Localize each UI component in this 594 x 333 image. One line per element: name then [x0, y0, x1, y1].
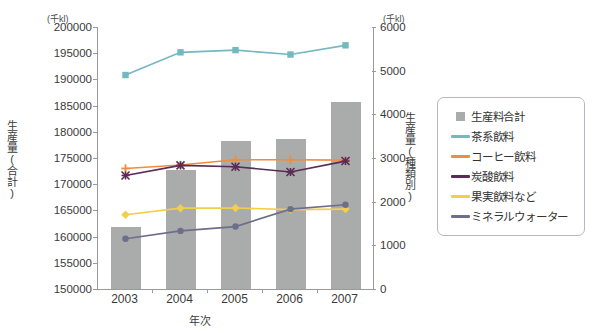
- data-point-marker-circle: [232, 223, 238, 229]
- legend-label: 炭酸飲料: [471, 168, 514, 184]
- data-point-marker-star: [287, 168, 295, 176]
- right-tick-mark: [372, 114, 376, 115]
- x-tick-mark: [152, 289, 153, 293]
- x-tick-label: 2003: [99, 292, 151, 306]
- data-point-marker-star: [232, 163, 240, 171]
- right-tick-label: 1000: [380, 239, 430, 251]
- data-point-marker-star: [342, 157, 350, 165]
- legend-key: [449, 215, 471, 218]
- data-point-marker-star: [177, 161, 185, 169]
- data-point-marker-plus: [286, 156, 294, 164]
- left-tick-label: 200000: [30, 21, 92, 33]
- left-tick-mark: [93, 263, 97, 264]
- left-tick-mark: [93, 53, 97, 54]
- legend-item[interactable]: ミネラルウォーター: [449, 206, 575, 226]
- left-tick-mark: [93, 184, 97, 185]
- right-tick-mark: [372, 158, 376, 159]
- legend-swatch-line-icon: [451, 175, 470, 178]
- right-tick-label: 0: [380, 283, 430, 295]
- left-tick-label: 185000: [30, 100, 92, 112]
- left-tick-mark: [93, 79, 97, 80]
- right-tick-mark: [372, 202, 376, 203]
- legend-key: [449, 175, 471, 178]
- data-point-marker-diamond: [121, 211, 129, 219]
- left-axis-title: 生産量(合計): [6, 120, 17, 199]
- left-tick-label: 180000: [30, 126, 92, 138]
- data-point-marker-square: [342, 42, 348, 48]
- legend-swatch-line-icon: [451, 195, 470, 198]
- data-point-marker-square: [287, 51, 293, 57]
- legend-label: 果実飲料など: [471, 188, 536, 204]
- left-tick-label: 165000: [30, 204, 92, 216]
- chart-legend: 生産料合計茶系飲料コーヒー飲料炭酸飲料果実飲料などミネラルウォーター: [437, 97, 585, 236]
- chart-root: (千kl) (千kl) 生産量(合計) 生産量(種類別) 年次 15000015…: [0, 0, 594, 333]
- legend-key: [449, 135, 471, 138]
- legend-swatch-line-icon: [451, 135, 470, 138]
- data-point-marker-circle: [287, 206, 293, 212]
- left-tick-label: 155000: [30, 257, 92, 269]
- x-tick-label: 2007: [319, 292, 371, 306]
- left-tick-label: 170000: [30, 178, 92, 190]
- left-tick-mark: [93, 158, 97, 159]
- right-tick-label: 6000: [380, 21, 430, 33]
- data-point-marker-diamond: [231, 204, 239, 212]
- x-tick-mark: [207, 289, 208, 293]
- legend-swatch-line-icon: [451, 215, 470, 218]
- data-point-marker-circle: [177, 228, 183, 234]
- legend-key: [449, 195, 471, 198]
- data-point-marker-star: [122, 171, 130, 179]
- data-point-marker-circle: [342, 202, 348, 208]
- right-tick-label: 3000: [380, 152, 430, 164]
- x-tick-label: 2004: [154, 292, 206, 306]
- right-tick-label: 2000: [380, 196, 430, 208]
- legend-key: [449, 155, 471, 158]
- legend-item[interactable]: 生産料合計: [449, 106, 575, 126]
- left-tick-label: 175000: [30, 152, 92, 164]
- right-tick-mark: [372, 289, 376, 290]
- left-tick-mark: [93, 289, 97, 290]
- legend-item[interactable]: 茶系飲料: [449, 126, 575, 146]
- data-point-marker-circle: [122, 236, 128, 242]
- left-tick-label: 150000: [30, 283, 92, 295]
- left-tick-label: 190000: [30, 73, 92, 85]
- data-point-marker-square: [177, 49, 183, 55]
- data-point-marker-diamond: [176, 204, 184, 212]
- x-tick-mark: [317, 289, 318, 293]
- right-tick-mark: [372, 27, 376, 28]
- legend-label: 生産料合計: [471, 108, 525, 124]
- right-tick-label: 4000: [380, 108, 430, 120]
- left-tick-mark: [93, 132, 97, 133]
- left-axis-ticks: 1500001550001600001650001700001750001800…: [26, 0, 92, 333]
- legend-label: コーヒー飲料: [471, 148, 536, 164]
- legend-swatch-box-icon: [456, 112, 465, 121]
- x-tick-label: 2005: [209, 292, 261, 306]
- legend-item[interactable]: 果実飲料など: [449, 186, 575, 206]
- x-tick-mark: [262, 289, 263, 293]
- legend-item[interactable]: 炭酸飲料: [449, 166, 575, 186]
- legend-label: ミネラルウォーター: [471, 208, 568, 224]
- right-tick-mark: [372, 71, 376, 72]
- left-tick-mark: [93, 210, 97, 211]
- line-series: [98, 27, 373, 289]
- data-point-marker-square: [122, 72, 128, 78]
- legend-key: [449, 112, 471, 121]
- left-tick-label: 160000: [30, 231, 92, 243]
- left-tick-label: 195000: [30, 47, 92, 59]
- left-tick-mark: [93, 106, 97, 107]
- right-axis-ticks: 0100020003000400050006000: [380, 0, 430, 333]
- left-tick-mark: [93, 237, 97, 238]
- x-tick-label: 2006: [264, 292, 316, 306]
- right-tick-label: 5000: [380, 65, 430, 77]
- legend-label: 茶系飲料: [471, 128, 514, 144]
- right-tick-mark: [372, 245, 376, 246]
- legend-swatch-line-icon: [451, 155, 470, 158]
- left-tick-mark: [93, 27, 97, 28]
- data-point-marker-square: [232, 47, 238, 53]
- plot-area: [97, 27, 374, 290]
- legend-item[interactable]: コーヒー飲料: [449, 146, 575, 166]
